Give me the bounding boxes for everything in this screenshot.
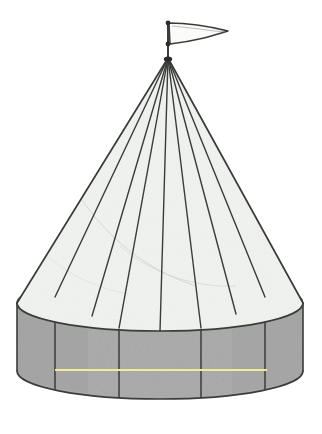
figure-canvas: Cone on top of a cylinder with a pennant… xyxy=(0,0,322,434)
flag-top-marker-dot xyxy=(166,21,171,26)
tent-diagram-svg xyxy=(0,0,322,434)
apex-knob xyxy=(164,56,172,61)
flag-bottom-marker-dot xyxy=(166,42,171,47)
